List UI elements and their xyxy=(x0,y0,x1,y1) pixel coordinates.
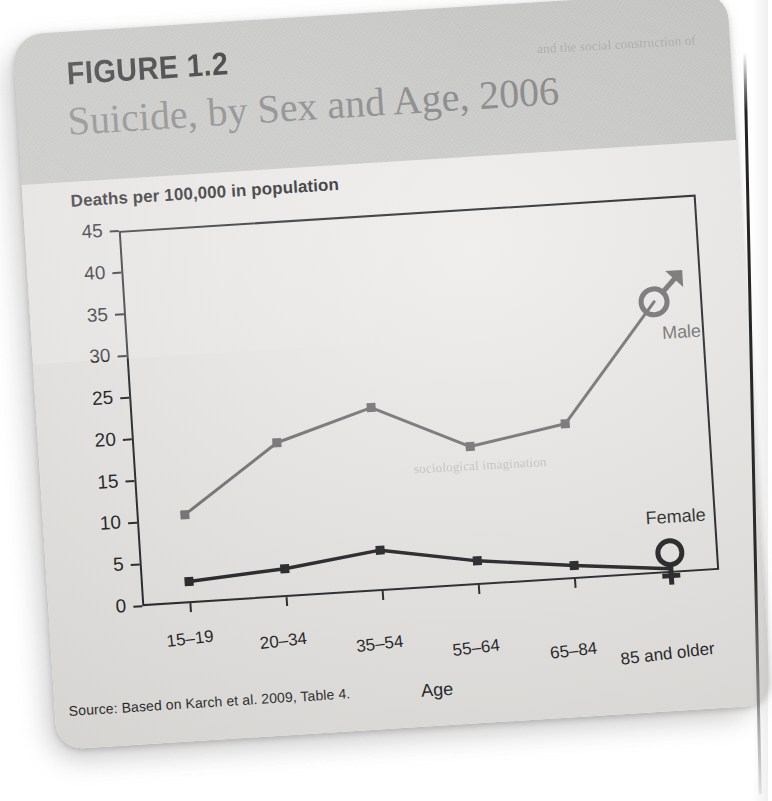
y-axis-tick-label: 15 xyxy=(80,470,119,494)
x-axis-tick-label: 35–54 xyxy=(355,632,404,657)
y-axis-tick-label: 25 xyxy=(75,387,114,411)
figure-number-label: FIGURE 1.2 xyxy=(66,46,230,92)
x-axis-tick-label: 55–64 xyxy=(452,636,501,661)
y-axis-tick-label: 40 xyxy=(67,262,106,286)
y-axis-tick-label: 5 xyxy=(85,553,124,577)
y-axis-tick-label: 0 xyxy=(88,595,127,619)
x-axis-tick-label: 85 and older xyxy=(619,639,715,670)
line-chart: 05101520253035404515–1920–3435–5455–6465… xyxy=(70,188,736,667)
reverse-page-showthrough-top: and the social construction of xyxy=(366,27,697,70)
source-note: Source: Based on Karch et al. 2009, Tabl… xyxy=(68,685,350,719)
chart-svg xyxy=(70,188,736,667)
y-axis-caption: Deaths per 100,000 in population xyxy=(70,175,339,212)
y-axis-tick-label: 10 xyxy=(82,512,121,536)
venus-symbol xyxy=(657,540,684,585)
x-axis-title: Age xyxy=(421,679,454,702)
page-gutter-shadow xyxy=(752,0,768,801)
y-axis-tick-label: 35 xyxy=(69,303,108,327)
chart-panel: sociological imagination Deaths per 100,… xyxy=(22,140,772,750)
y-axis-tick-label: 30 xyxy=(72,345,111,369)
series-label-female: Female xyxy=(645,504,706,529)
textbook-page: and the social construction of FIGURE 1.… xyxy=(12,0,772,750)
y-axis-tick-label: 45 xyxy=(64,220,103,244)
mars-symbol xyxy=(639,270,685,316)
x-axis-tick-label: 65–84 xyxy=(549,639,598,664)
y-axis-tick-label: 20 xyxy=(77,428,116,452)
series-label-male: Male xyxy=(661,321,701,344)
